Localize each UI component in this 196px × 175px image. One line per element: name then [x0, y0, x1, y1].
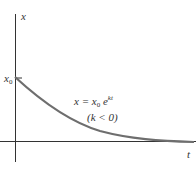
- x-axis-label: t: [187, 149, 190, 160]
- decay-curve: [15, 77, 194, 142]
- y-axis-label: x: [21, 11, 26, 22]
- condition-label: (k < 0): [87, 112, 118, 123]
- formula-e: e: [100, 95, 108, 107]
- graph-canvas: [0, 0, 196, 175]
- formula-lhs: x = x: [74, 95, 97, 107]
- formula-label: x = x0 ekt: [74, 95, 113, 109]
- x0-subscript: 0: [9, 78, 13, 86]
- x0-label: x0: [4, 73, 12, 86]
- formula-exponent: kt: [108, 94, 113, 102]
